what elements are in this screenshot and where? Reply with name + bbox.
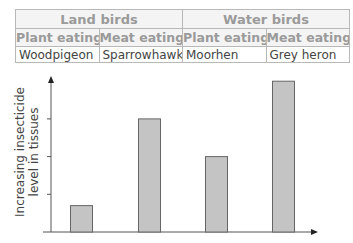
bird-diet-table: Land birds Water birds Plant eating Meat… — [15, 9, 350, 63]
bar-sparrowhawk — [139, 119, 161, 232]
group-header-water-birds: Water birds — [183, 10, 350, 29]
subheader-land-meat: Meat eating — [99, 29, 183, 47]
group-header-land-birds: Land birds — [16, 10, 183, 29]
y-axis-arrow-icon — [48, 76, 54, 83]
bar-moorhen — [206, 157, 228, 232]
subheader-land-plant: Plant eating — [16, 29, 100, 47]
x-axis-arrow-icon — [311, 229, 318, 235]
bar-woodpigeon — [71, 206, 93, 232]
bar-grey-heron — [273, 81, 295, 232]
subheader-water-plant: Plant eating — [183, 29, 267, 47]
plot-area — [0, 60, 353, 243]
insecticide-bar-chart: Increasing insecticide level in tissues — [0, 60, 353, 243]
subheader-water-meat: Meat eating — [266, 29, 350, 47]
